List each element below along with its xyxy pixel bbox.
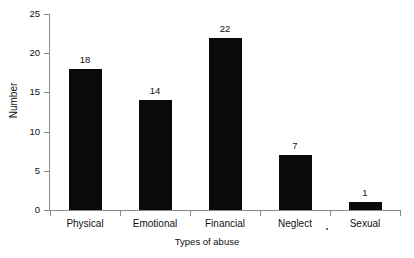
y-tick-mark — [44, 210, 49, 211]
y-axis-title: Number — [8, 66, 19, 136]
bar — [279, 155, 312, 210]
bar — [349, 202, 382, 210]
bar-value-label: 22 — [200, 24, 250, 34]
bar-value-label: 7 — [270, 141, 320, 151]
bar — [139, 100, 172, 210]
bar-chart: 0510152025 18Physical14Emotional22Financ… — [0, 0, 414, 258]
y-tick-label: 0 — [14, 205, 40, 215]
y-tick-mark — [44, 171, 49, 172]
category-label: Sexual — [330, 219, 400, 229]
x-tick-mark — [50, 211, 51, 216]
category-label: Physical — [50, 219, 120, 229]
y-tick-label: 20 — [14, 48, 40, 58]
y-tick-mark — [44, 14, 49, 15]
x-tick-mark — [400, 211, 401, 216]
bar — [209, 38, 242, 210]
x-tick-mark — [260, 211, 261, 216]
y-tick-label: 25 — [14, 9, 40, 19]
category-label: Emotional — [120, 219, 190, 229]
x-tick-mark — [330, 211, 331, 216]
bar-value-label: 18 — [60, 55, 110, 65]
x-axis-line — [49, 210, 401, 211]
y-tick-mark — [44, 132, 49, 133]
x-axis-title: Types of abuse — [0, 236, 414, 247]
y-tick-label: 5 — [14, 166, 40, 176]
y-tick-mark — [44, 92, 49, 93]
y-tick-mark — [44, 53, 49, 54]
scan-speck — [326, 228, 328, 230]
y-axis-line — [49, 14, 50, 211]
category-label: Financial — [190, 219, 260, 229]
category-label: Neglect — [260, 219, 330, 229]
x-tick-mark — [120, 211, 121, 216]
bar — [69, 69, 102, 210]
bar-value-label: 1 — [340, 188, 390, 198]
bar-value-label: 14 — [130, 86, 180, 96]
x-tick-mark — [190, 211, 191, 216]
